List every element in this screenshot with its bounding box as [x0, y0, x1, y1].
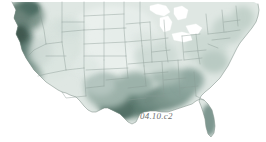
figure-panel: 04.10.c2 [0, 0, 266, 142]
figure-number-label: 04.10.c2 [140, 111, 173, 121]
us-choropleth-map [0, 0, 266, 142]
